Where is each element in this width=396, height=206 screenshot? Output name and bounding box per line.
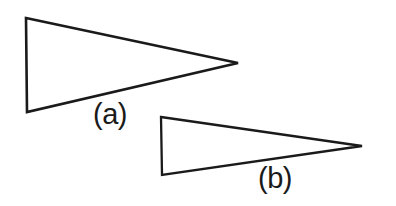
figure-drawing-canvas (0, 0, 396, 206)
figure-container: (a) (b) (0, 0, 396, 206)
figure-label-a: (a) (93, 100, 127, 129)
figure-label-b: (b) (258, 164, 292, 193)
canvas-background (0, 0, 396, 206)
